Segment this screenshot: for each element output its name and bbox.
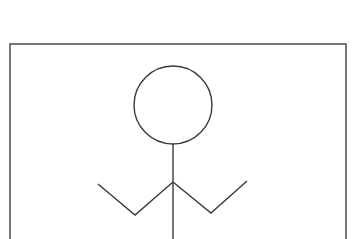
stick-figure-right-arm <box>173 181 247 213</box>
stick-figure-head <box>134 66 212 144</box>
stick-figure-left-arm <box>98 182 173 215</box>
stick-figure-diagram <box>0 0 358 239</box>
frame-border <box>10 44 346 239</box>
